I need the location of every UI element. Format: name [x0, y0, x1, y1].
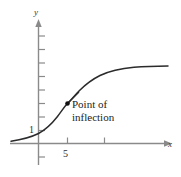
inflection-point-marker — [65, 101, 70, 106]
y-tick-label-1: 1 — [29, 125, 34, 135]
x-axis-label: x — [168, 140, 172, 149]
inflection-annotation-line-1: Point of — [72, 98, 114, 111]
y-axis-label: y — [34, 8, 38, 17]
y-axis-ticks — [39, 36, 46, 157]
inflection-annotation: Point of inflection — [72, 98, 114, 124]
y-axis-arrowhead — [35, 19, 41, 27]
inflection-annotation-line-2: inflection — [72, 111, 114, 124]
x-tick-label-5: 5 — [63, 149, 68, 159]
chart-plot-area — [0, 0, 181, 177]
x-axis-ticks — [68, 138, 105, 144]
chart-figure: y x 1 5 Point of inflection — [0, 0, 181, 177]
